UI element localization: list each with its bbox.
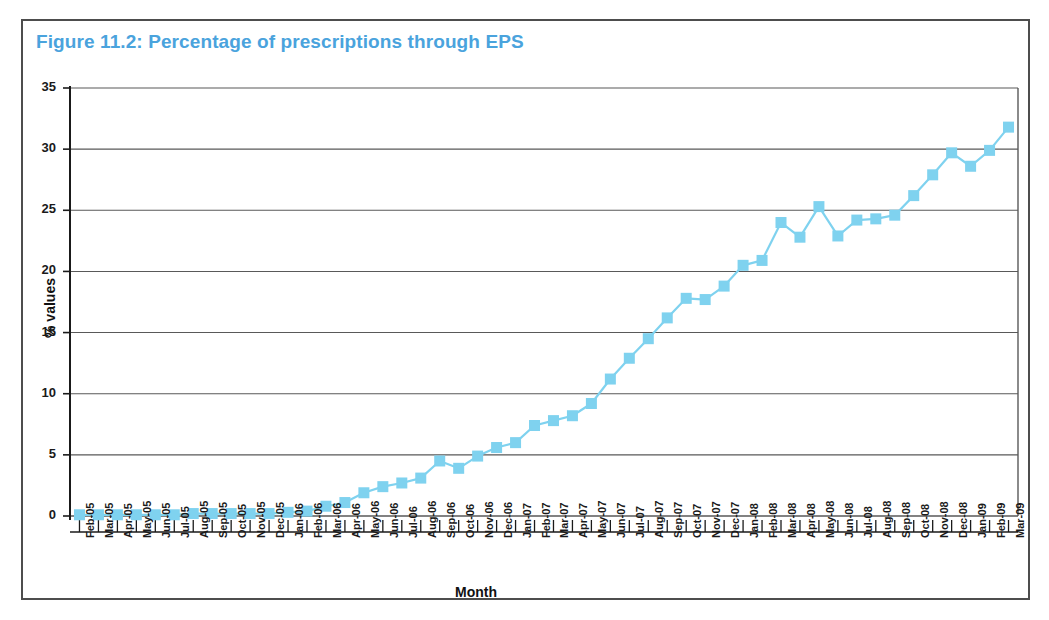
x-axis-tick-label: Mar-09 xyxy=(1014,503,1026,538)
data-point-marker xyxy=(510,437,521,448)
data-point-marker xyxy=(889,210,900,221)
x-axis-tick-label: Oct-08 xyxy=(919,504,931,538)
x-axis-tick-label: Jan-07 xyxy=(521,503,533,538)
data-point-marker xyxy=(776,217,787,228)
x-axis-tick-label: Jul-05 xyxy=(179,506,191,538)
y-axis-tick-label: 5 xyxy=(16,446,56,461)
data-point-marker xyxy=(946,147,957,158)
data-point-marker xyxy=(567,410,578,421)
x-axis-tick-label: Dec-06 xyxy=(502,502,514,538)
x-axis-tick-label: Aug-08 xyxy=(881,501,893,538)
data-point-marker xyxy=(965,161,976,172)
data-point-marker xyxy=(757,255,768,266)
data-point-marker xyxy=(491,442,502,453)
x-axis-tick-label: May-05 xyxy=(141,501,153,538)
x-axis-tick-label: Jul-08 xyxy=(862,506,874,538)
data-point-marker xyxy=(586,398,597,409)
data-point-marker xyxy=(605,374,616,385)
x-axis-tick-label: Jan-06 xyxy=(293,503,305,538)
x-axis-tick-label: Mar-08 xyxy=(786,503,798,538)
y-axis-tick-label: 35 xyxy=(16,79,56,94)
y-axis-tick-label: 10 xyxy=(16,385,56,400)
data-point-marker xyxy=(719,281,730,292)
x-axis-tick-label: Aug-05 xyxy=(198,501,210,538)
y-axis-tick-label: 20 xyxy=(16,262,56,277)
data-point-marker xyxy=(415,473,426,484)
x-axis-tick-label: Jul-06 xyxy=(407,506,419,538)
data-point-marker xyxy=(832,230,843,241)
x-axis-tick-label: Jun-07 xyxy=(615,503,627,538)
x-axis-tick-label: May-07 xyxy=(596,501,608,538)
data-point-marker xyxy=(643,333,654,344)
x-axis-tick-label: Feb-08 xyxy=(767,503,779,538)
x-axis-tick-label: Feb-05 xyxy=(84,503,96,538)
x-axis-tick-label: Dec-07 xyxy=(729,502,741,538)
x-axis-tick-label: Apr-06 xyxy=(350,503,362,538)
data-point-marker xyxy=(434,455,445,466)
x-axis-tick-label: Nov-08 xyxy=(938,501,950,538)
x-axis-tick-label: Sep-06 xyxy=(445,502,457,538)
data-point-marker xyxy=(681,293,692,304)
y-axis-tick-label: 15 xyxy=(16,324,56,339)
x-axis-tick-label: Mar-06 xyxy=(331,503,343,538)
data-point-marker xyxy=(813,201,824,212)
data-point-marker xyxy=(396,477,407,488)
x-axis-tick-label: Apr-07 xyxy=(577,503,589,538)
x-axis-tick-label: Sep-05 xyxy=(217,502,229,538)
data-point-marker xyxy=(851,215,862,226)
data-point-marker xyxy=(927,169,938,180)
data-point-marker xyxy=(377,481,388,492)
x-axis-tick-label: Nov-06 xyxy=(483,501,495,538)
data-point-marker xyxy=(529,420,540,431)
x-axis-tick-label: Jun-06 xyxy=(388,503,400,538)
x-axis-tick-label: Mar-05 xyxy=(103,503,115,538)
x-axis-tick-label: Feb-09 xyxy=(995,503,1007,538)
x-axis-tick-label: Apr-08 xyxy=(805,503,817,538)
data-point-marker xyxy=(984,145,995,156)
data-point-marker xyxy=(700,294,711,305)
y-axis-tick-label: 25 xyxy=(16,201,56,216)
data-point-marker xyxy=(472,451,483,462)
data-point-marker xyxy=(624,353,635,364)
data-point-marker xyxy=(908,190,919,201)
x-axis-tick-label: Nov-07 xyxy=(710,501,722,538)
x-axis-tick-label: May-06 xyxy=(369,501,381,538)
x-axis-tick-label: Oct-07 xyxy=(691,504,703,538)
x-axis-tick-label: Jan-09 xyxy=(976,503,988,538)
data-point-marker xyxy=(738,260,749,271)
x-axis-tick-label: Feb-06 xyxy=(312,503,324,538)
x-axis-tick-label: Feb-07 xyxy=(540,503,552,538)
data-point-marker xyxy=(453,463,464,474)
data-point-marker xyxy=(794,232,805,243)
data-point-marker xyxy=(1003,122,1014,133)
x-axis-tick-label: Oct-06 xyxy=(464,504,476,538)
chart-plot-area: % values Month 05101520253035 Feb-05Mar-… xyxy=(0,0,1049,620)
x-axis-tick-label: Jun-05 xyxy=(160,503,172,538)
x-axis-tick-label: Sep-07 xyxy=(672,502,684,538)
data-point-marker xyxy=(548,415,559,426)
data-point-marker xyxy=(662,312,673,323)
data-point-marker xyxy=(870,213,881,224)
data-point-marker xyxy=(358,487,369,498)
x-axis-tick-label: Dec-05 xyxy=(274,502,286,538)
x-axis-tick-label: Jul-07 xyxy=(634,506,646,538)
x-axis-tick-label: Jun-08 xyxy=(843,503,855,538)
x-axis-tick-label: Jan-08 xyxy=(748,503,760,538)
x-axis-tick-label: Aug-06 xyxy=(426,501,438,538)
x-axis-tick-label: May-08 xyxy=(824,501,836,538)
x-axis-tick-label: Apr-05 xyxy=(122,503,134,538)
y-axis-tick-label: 30 xyxy=(16,140,56,155)
x-axis-title: Month xyxy=(455,584,497,600)
x-axis-tick-label: Nov-05 xyxy=(255,501,267,538)
x-axis-tick-label: Mar-07 xyxy=(558,503,570,538)
x-axis-tick-label: Sep-08 xyxy=(900,502,912,538)
x-axis-tick-label: Oct-05 xyxy=(236,504,248,538)
x-axis-tick-label: Aug-07 xyxy=(653,501,665,538)
x-axis-tick-label: Dec-08 xyxy=(957,502,969,538)
y-axis-tick-label: 0 xyxy=(16,507,56,522)
